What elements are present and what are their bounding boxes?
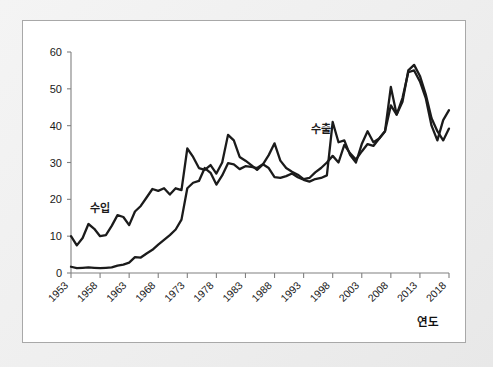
- x-axis-title: 연도: [417, 315, 439, 329]
- series-label-import: 수입: [90, 202, 110, 215]
- series-line-import: [71, 70, 449, 245]
- y-tick-label: 10: [50, 230, 62, 242]
- x-tick-label: 1978: [191, 279, 216, 304]
- x-tick-label: 1953: [45, 279, 70, 304]
- y-tick-label: 60: [50, 46, 62, 58]
- x-tick-label: 2013: [394, 279, 419, 304]
- x-tick-label: 2003: [336, 279, 361, 304]
- x-tick-label: 1968: [133, 279, 158, 304]
- y-tick-label: 50: [50, 83, 62, 95]
- x-tick-label: 1993: [278, 279, 303, 304]
- series-label-export: 수출: [311, 122, 331, 136]
- y-tick-label: 40: [50, 120, 62, 132]
- y-axis-tick-labels: 0102030405060: [50, 46, 62, 279]
- x-axis-tick-marks: [71, 273, 449, 278]
- y-tick-label: 0: [56, 267, 62, 279]
- chart-panel: 0102030405060 19531958196319681973197819…: [22, 20, 466, 343]
- figure-root: 0102030405060 19531958196319681973197819…: [0, 0, 493, 367]
- y-tick-label: 30: [50, 157, 62, 169]
- x-tick-label: 2018: [423, 279, 448, 304]
- y-tick-label: 20: [50, 193, 62, 205]
- x-tick-label: 1998: [307, 279, 332, 304]
- x-axis-tick-labels: 1953195819631968197319781983198819931998…: [45, 279, 448, 304]
- x-tick-label: 1963: [104, 279, 129, 304]
- x-tick-label: 2008: [365, 279, 390, 304]
- x-tick-label: 1983: [220, 279, 245, 304]
- x-tick-label: 1988: [249, 279, 274, 304]
- line-chart: 0102030405060 19531958196319681973197819…: [23, 21, 467, 344]
- x-tick-label: 1973: [162, 279, 187, 304]
- x-tick-label: 1958: [74, 279, 99, 304]
- y-axis-tick-marks: [67, 52, 71, 273]
